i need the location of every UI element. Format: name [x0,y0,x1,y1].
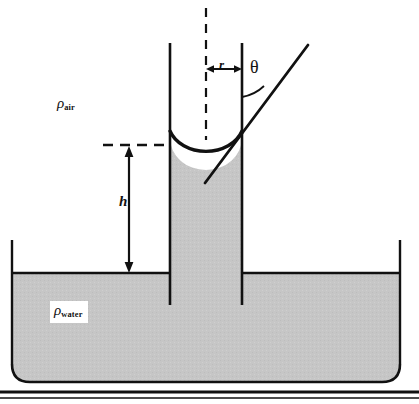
label-rho-air: ρair [57,96,75,113]
label-capillary-height: h [119,194,127,209]
rho-water-subscript: water [61,310,82,319]
contact-angle-arc [242,86,264,97]
rho-air-subscript: air [64,103,75,112]
tube-fluid-fill [170,138,242,305]
label-rho-water: ρwater [50,301,88,323]
label-contact-angle: θ [250,58,259,76]
label-tube-radius: r [219,58,224,71]
height-dimension-arrow [125,146,134,273]
diagram-canvas [0,0,419,404]
capillary-rise-diagram: ρair ρwater h r θ [0,0,419,404]
